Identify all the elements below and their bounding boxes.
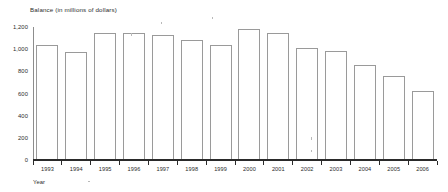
tick-mark <box>177 161 178 165</box>
bar-1997 <box>152 35 174 160</box>
x-tick-label: 2002 <box>293 166 322 176</box>
x-tick-label: 2006 <box>408 166 437 176</box>
bar-slot <box>177 27 206 160</box>
x-tick-label: 1997 <box>148 166 177 176</box>
y-tick-label: 600 <box>18 91 28 97</box>
y-axis: 1,200 1,000 800 600 400 200 0 <box>0 27 31 160</box>
bar-1993 <box>36 45 58 160</box>
bar-2003 <box>325 51 347 160</box>
bar-slot <box>408 27 437 160</box>
x-tick-label: 1994 <box>62 166 91 176</box>
bar-2000 <box>238 29 260 160</box>
y-tick-label: 800 <box>18 68 28 74</box>
tick-mark <box>235 161 236 165</box>
tick-mark <box>206 161 207 165</box>
scan-speckle <box>311 137 312 140</box>
tick-mark <box>33 161 34 165</box>
bar-2001 <box>267 33 289 160</box>
tick-slot <box>293 161 322 165</box>
bar-slot <box>120 27 149 160</box>
x-axis-title: Year <box>33 179 45 185</box>
bar-chart: Balance (in millions of dollars) 1,200 1… <box>0 0 448 192</box>
bar-1996 <box>123 33 145 160</box>
bar-1995 <box>94 33 116 160</box>
x-axis-labels: 1993 1994 1995 1996 1997 1998 1999 2000 … <box>33 166 437 176</box>
bars-layer <box>33 27 437 160</box>
tick-slot <box>62 161 91 165</box>
x-tick-label: 2005 <box>379 166 408 176</box>
tick-slot <box>91 161 120 165</box>
tick-mark <box>292 161 293 165</box>
x-tick-label: 1996 <box>120 166 149 176</box>
tick-slot <box>206 161 235 165</box>
tick-mark <box>437 161 438 165</box>
y-tick-label: 1,200 <box>13 24 28 30</box>
tick-slot <box>379 161 408 165</box>
bar-slot <box>33 27 62 160</box>
tick-slot <box>33 161 62 165</box>
scan-speckle <box>161 22 162 24</box>
x-tick-label: 2004 <box>350 166 379 176</box>
scan-speckle <box>212 17 213 19</box>
bar-2005 <box>383 76 405 160</box>
tick-slot <box>350 161 379 165</box>
scan-speckle <box>311 150 312 152</box>
scan-speckle <box>88 181 90 182</box>
tick-mark <box>90 161 91 165</box>
x-tick-label: 1995 <box>91 166 120 176</box>
bar-slot <box>62 27 91 160</box>
tick-mark <box>321 161 322 165</box>
bar-slot <box>293 27 322 160</box>
tick-mark <box>379 161 380 165</box>
bar-1994 <box>65 52 87 160</box>
bar-2004 <box>354 65 376 160</box>
bar-slot <box>322 27 351 160</box>
x-axis-ticks <box>33 161 437 165</box>
tick-slot <box>177 161 206 165</box>
y-tick-label: 1,000 <box>13 46 28 52</box>
tick-mark <box>408 161 409 165</box>
bar-1998 <box>181 40 203 160</box>
y-tick-label: 0 <box>25 157 28 163</box>
tick-slot <box>322 161 351 165</box>
scan-speckle <box>131 33 132 36</box>
x-tick-label: 1993 <box>33 166 62 176</box>
tick-slot <box>148 161 177 165</box>
bar-slot <box>350 27 379 160</box>
tick-slot <box>235 161 264 165</box>
bar-slot <box>379 27 408 160</box>
tick-mark <box>148 161 149 165</box>
bar-1999 <box>210 45 232 160</box>
tick-mark <box>350 161 351 165</box>
tick-mark <box>119 161 120 165</box>
bar-slot <box>148 27 177 160</box>
bar-slot <box>235 27 264 160</box>
tick-slot <box>408 161 437 165</box>
y-tick-label: 200 <box>18 135 28 141</box>
chart-title: Balance (in millions of dollars) <box>30 6 117 13</box>
x-tick-label: 1998 <box>177 166 206 176</box>
tick-slot <box>120 161 149 165</box>
x-tick-label: 2001 <box>264 166 293 176</box>
tick-slot <box>264 161 293 165</box>
bar-2006 <box>412 91 434 160</box>
y-tick-label: 400 <box>18 113 28 119</box>
x-tick-label: 2000 <box>235 166 264 176</box>
bar-slot <box>206 27 235 160</box>
tick-mark <box>61 161 62 165</box>
bar-slot <box>264 27 293 160</box>
tick-mark <box>263 161 264 165</box>
bar-slot <box>91 27 120 160</box>
x-tick-label: 2003 <box>322 166 351 176</box>
x-tick-label: 1999 <box>206 166 235 176</box>
bar-2002 <box>296 48 318 161</box>
